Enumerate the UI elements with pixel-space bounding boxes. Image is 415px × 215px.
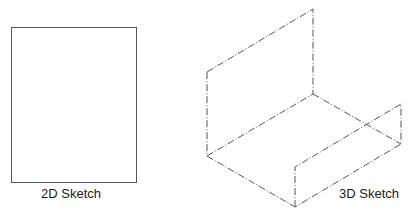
3d-sketch-label: 3D Sketch (339, 186, 399, 201)
2d-sketch-label: 2D Sketch (41, 186, 101, 201)
3d-sketch-wireframe (207, 9, 401, 207)
2d-sketch-rectangle (12, 28, 137, 183)
sketch-canvas (0, 0, 415, 215)
